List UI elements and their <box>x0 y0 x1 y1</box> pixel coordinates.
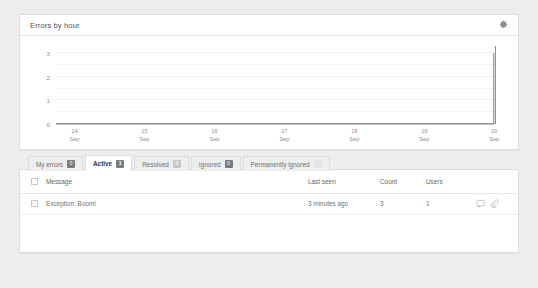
tab-active-badge: 1 <box>116 160 124 168</box>
x-tick-2-day: 16 <box>209 128 219 136</box>
attachment-icon[interactable] <box>490 199 499 208</box>
x-tick-6: 20 Sep <box>489 128 499 143</box>
cell-message[interactable]: Exception: Boom! <box>46 193 308 214</box>
column-header-users[interactable]: Users <box>426 171 472 193</box>
page-root: Errors by hour 3 2 1 0 <box>0 0 538 288</box>
table-row[interactable]: Exception: Boom! 3 minutes ago 3 1 <box>20 193 518 214</box>
chart-card-header: Errors by hour <box>20 15 518 36</box>
cell-actions <box>472 193 518 214</box>
x-tick-1-day: 15 <box>139 128 149 136</box>
tab-ignored-badge: 0 <box>225 160 233 168</box>
tab-permanently-ignored-label: Permanently ignored <box>251 161 310 168</box>
x-tick-0: 14 Sep <box>69 128 79 143</box>
tab-my-errors-badge: 0 <box>67 160 75 168</box>
x-tick-5-day: 19 <box>419 128 429 136</box>
y-axis-right-line <box>495 46 496 124</box>
y-tick-0: 0 <box>47 121 50 128</box>
chart-title: Errors by hour <box>30 21 80 30</box>
errors-table: Message Last seen Count Users Exception:… <box>20 171 518 215</box>
x-tick-4: 18 Sep <box>349 128 359 143</box>
column-header-count[interactable]: Count <box>380 171 426 193</box>
x-tick-3-month: Sep <box>279 136 289 144</box>
column-header-last-seen[interactable]: Last seen <box>308 171 380 193</box>
x-tick-4-day: 18 <box>349 128 359 136</box>
tab-permanently-ignored-badge: 0 <box>314 160 322 168</box>
chart-plot-area: 3 2 1 0 14 Sep 15 Sep <box>20 36 518 149</box>
tab-active-label: Active <box>93 160 112 167</box>
row-checkbox[interactable] <box>31 200 38 207</box>
x-tick-1: 15 Sep <box>139 128 149 143</box>
row-action-group <box>472 199 518 208</box>
column-header-message[interactable]: Message <box>46 171 308 193</box>
x-tick-4-month: Sep <box>349 136 359 144</box>
tab-active[interactable]: Active 1 <box>85 155 132 171</box>
y-tick-3: 3 <box>47 50 50 57</box>
x-axis-line <box>56 123 496 124</box>
x-tick-5-month: Sep <box>419 136 429 144</box>
tab-ignored-label: Ignored <box>199 161 221 168</box>
x-tick-2: 16 Sep <box>209 128 219 143</box>
tab-resolved[interactable]: Resolved 0 <box>134 156 189 171</box>
x-tick-0-month: Sep <box>69 136 79 144</box>
error-status-tabs: My errors 0 Active 1 Resolved 0 Ignored … <box>20 155 332 171</box>
column-header-actions <box>472 171 518 193</box>
row-select-cell <box>20 193 46 214</box>
tab-resolved-label: Resolved <box>142 161 169 168</box>
chart-plot: 3 2 1 0 14 Sep 15 Sep <box>56 46 496 124</box>
x-tick-3-day: 17 <box>279 128 289 136</box>
errors-by-hour-card: Errors by hour 3 2 1 0 <box>19 14 519 150</box>
x-tick-1-month: Sep <box>139 136 149 144</box>
cell-last-seen: 3 minutes ago <box>308 193 380 214</box>
x-tick-6-month: Sep <box>489 136 499 144</box>
select-all-cell <box>20 171 46 193</box>
x-tick-5: 19 Sep <box>419 128 429 143</box>
cell-count: 3 <box>380 193 426 214</box>
x-tick-0-day: 14 <box>69 128 79 136</box>
tab-my-errors-label: My errors <box>36 161 63 168</box>
x-tick-2-month: Sep <box>209 136 219 144</box>
y-tick-1: 1 <box>47 97 50 104</box>
table-header-row: Message Last seen Count Users <box>20 171 518 193</box>
tab-ignored[interactable]: Ignored 0 <box>191 156 241 171</box>
tab-resolved-badge: 0 <box>173 160 181 168</box>
errors-list-card: My errors 0 Active 1 Resolved 0 Ignored … <box>19 169 519 253</box>
x-tick-3: 17 Sep <box>279 128 289 143</box>
select-all-checkbox[interactable] <box>31 178 38 185</box>
tab-my-errors[interactable]: My errors 0 <box>28 156 83 171</box>
tab-permanently-ignored[interactable]: Permanently ignored 0 <box>243 156 330 171</box>
x-tick-6-day: 20 <box>489 128 499 136</box>
errors-series-line <box>56 46 496 124</box>
comment-icon[interactable] <box>476 199 485 208</box>
gear-icon[interactable] <box>498 20 509 31</box>
y-tick-2: 2 <box>47 73 50 80</box>
cell-users: 1 <box>426 193 472 214</box>
